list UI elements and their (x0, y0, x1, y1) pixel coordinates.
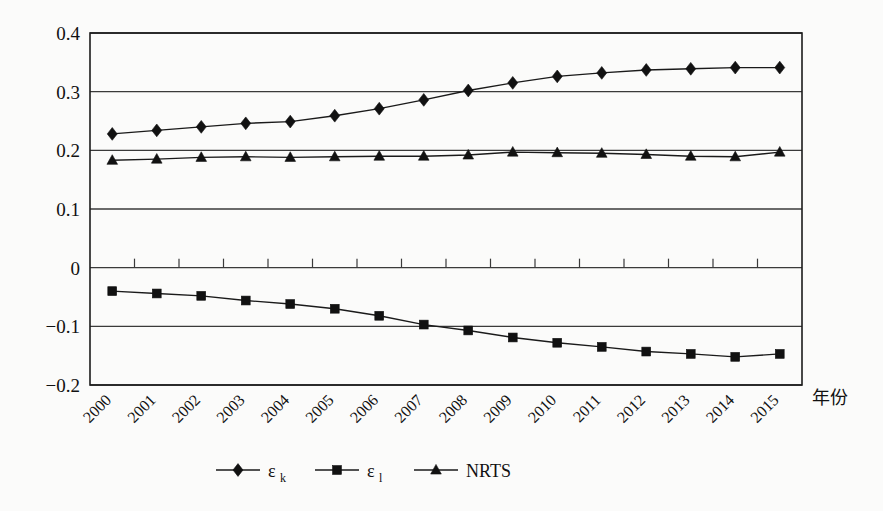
x-axis-tick-label: 2002 (169, 391, 204, 426)
legend-item-epsilon-k[interactable]: εk (216, 461, 286, 485)
data-point-marker (553, 338, 562, 347)
series-layer (107, 61, 785, 361)
x-axis-tick-label: 2001 (124, 391, 159, 426)
series-_k (107, 61, 784, 140)
x-axis-title: 年份 (812, 388, 848, 408)
legend-marker-square-icon (333, 466, 342, 475)
data-point-marker (597, 342, 606, 351)
data-point-marker (686, 62, 696, 75)
legend-item-nrts[interactable]: NRTS (414, 461, 511, 481)
x-axis-tick-label: 2009 (480, 391, 515, 426)
x-axis-tick-label: 2010 (525, 391, 560, 426)
x-axis-tick-label: 2003 (213, 391, 248, 426)
data-point-marker (464, 326, 473, 335)
x-axis-tick-label: 2013 (658, 391, 693, 426)
y-axis-tick-label: 0.4 (56, 23, 80, 44)
data-point-marker (596, 148, 607, 158)
x-axis-tick-label: 2011 (570, 391, 604, 425)
x-axis-tick-label: 2006 (347, 391, 382, 426)
data-point-marker (374, 151, 385, 161)
y-axis-tick-label: 0.3 (56, 82, 80, 103)
x-axis-tick-label: 2008 (436, 391, 471, 426)
data-point-marker (197, 291, 206, 300)
series-line (112, 152, 780, 160)
legend-label: ε (367, 461, 375, 481)
legend-item-epsilon-l[interactable]: εl (315, 461, 383, 485)
y-axis-tick-label: −0.1 (46, 316, 80, 337)
x-axis-tick-label: 2014 (703, 391, 738, 426)
series-_l (108, 287, 784, 362)
data-point-marker (508, 333, 517, 342)
x-axis-labels: 2000200120022003200420052006200720082009… (80, 391, 782, 426)
data-point-marker (641, 64, 651, 77)
chart-legend: εkεlNRTS (216, 461, 511, 485)
x-axis-tick-label: 2012 (614, 391, 649, 426)
data-point-marker (774, 146, 785, 156)
data-point-marker (775, 349, 784, 358)
legend-label: NRTS (466, 461, 511, 481)
data-point-marker (463, 84, 473, 97)
data-point-marker (330, 304, 339, 313)
y-axis-tick-label: 0.1 (56, 199, 80, 220)
x-axis-ticks (135, 259, 758, 268)
legend-marker-triangle-icon (431, 464, 442, 474)
data-point-marker (107, 128, 117, 141)
y-axis-labels: 0.40.30.20.10−0.1−0.2 (46, 23, 81, 396)
x-axis-tick-label: 2007 (391, 391, 426, 426)
data-point-marker (241, 296, 250, 305)
data-point-marker (330, 109, 340, 122)
data-point-marker (196, 120, 206, 133)
series-line (112, 68, 780, 134)
line-chart: 0.40.30.20.10−0.1−0.2 200020012002200320… (0, 0, 883, 511)
data-point-marker (419, 93, 429, 106)
x-axis-tick-label: 2004 (258, 391, 293, 426)
data-point-marker (507, 146, 518, 156)
x-axis-tick-label: 2015 (747, 391, 782, 426)
data-point-marker (285, 152, 296, 162)
y-axis-tick-label: −0.2 (46, 375, 80, 396)
gridlines (90, 33, 802, 385)
x-axis-tick-label: 2005 (302, 391, 337, 426)
y-axis-tick-label: 0.2 (56, 140, 80, 161)
y-axis-tick-label: 0 (71, 258, 81, 279)
data-point-marker (419, 320, 428, 329)
data-point-marker (286, 300, 295, 309)
series-line (112, 291, 780, 357)
data-point-marker (508, 76, 518, 89)
chart-figure: 0.40.30.20.10−0.1−0.2 200020012002200320… (0, 0, 883, 511)
data-point-marker (730, 61, 740, 74)
data-point-marker (775, 61, 785, 74)
x-axis-tick-label: 2000 (80, 391, 115, 426)
data-point-marker (285, 115, 295, 128)
data-point-marker (731, 352, 740, 361)
data-point-marker (552, 70, 562, 83)
data-point-marker (152, 124, 162, 137)
data-point-marker (374, 102, 384, 115)
data-point-marker (240, 151, 251, 161)
data-point-marker (642, 347, 651, 356)
data-point-marker (108, 287, 117, 296)
data-point-marker (686, 349, 695, 358)
data-point-marker (597, 66, 607, 79)
data-point-marker (196, 152, 207, 162)
legend-label: ε (268, 461, 276, 481)
data-point-marker (375, 311, 384, 320)
legend-label-subscript: k (280, 471, 286, 485)
data-point-marker (552, 147, 563, 157)
data-point-marker (329, 151, 340, 161)
legend-marker-diamond-icon (233, 464, 243, 477)
series-NRTS (107, 146, 785, 164)
data-point-marker (241, 117, 251, 130)
legend-label-subscript: l (379, 471, 383, 485)
data-point-marker (152, 289, 161, 298)
